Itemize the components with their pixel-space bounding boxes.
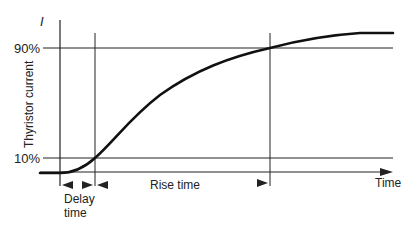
delay-time-label-line2: time	[64, 206, 87, 220]
delay-end-arrow-icon	[82, 181, 93, 189]
y-axis-label: Thyristor current	[22, 60, 36, 148]
thyristor-turn-on-diagram: I 90% 10% Thyristor current Time Rise ti…	[0, 0, 407, 227]
delay-start-arrow-icon	[62, 181, 73, 189]
current-curve	[40, 33, 393, 173]
rise-end-arrow-icon	[257, 179, 268, 187]
time-axis-arrow-icon	[380, 168, 393, 176]
level-10-label: 10%	[14, 151, 40, 166]
level-90-label: 90%	[14, 41, 40, 56]
rise-time-label: Rise time	[150, 178, 200, 192]
rise-start-arrow-icon	[97, 181, 108, 189]
y-axis-symbol: I	[40, 14, 44, 29]
x-axis-label: Time	[375, 176, 402, 190]
delay-time-label-line1: Delay	[64, 192, 95, 206]
